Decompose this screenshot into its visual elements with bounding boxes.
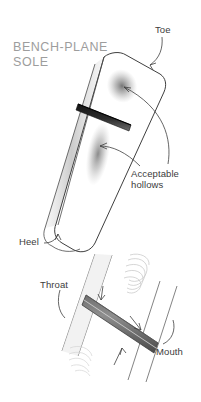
figure-title: BENCH-PLANE SOLE (13, 40, 108, 69)
detail-hatch-upper (124, 254, 149, 293)
plane-sole-body (44, 53, 166, 252)
detail-mouth-slot-highlight (84, 300, 156, 348)
label-mouth: Mouth (156, 346, 183, 357)
mouth-detail-view (58, 254, 177, 382)
leader-toe (150, 37, 162, 65)
bench-plane-sole-illustration: BENCH-PLANE SOLE Toe Acceptable hollows … (0, 0, 201, 402)
label-throat: Throat (40, 279, 68, 290)
label-acceptable-hollows: Acceptable hollows (131, 168, 179, 190)
label-toe: Toe (155, 24, 171, 35)
detail-mouth-slot-top-edge (86, 295, 158, 343)
detail-mouth-slot (82, 295, 158, 353)
label-heel: Heel (19, 236, 39, 247)
